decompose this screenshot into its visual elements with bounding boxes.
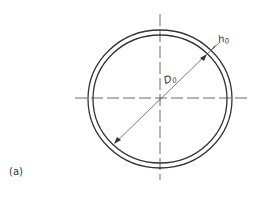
thickness-arrowhead-outer: [211, 44, 216, 50]
panel-label: (a): [9, 166, 23, 177]
diameter-dimension-line: [115, 55, 206, 143]
tube-cross-section-diagram: [0, 0, 266, 203]
